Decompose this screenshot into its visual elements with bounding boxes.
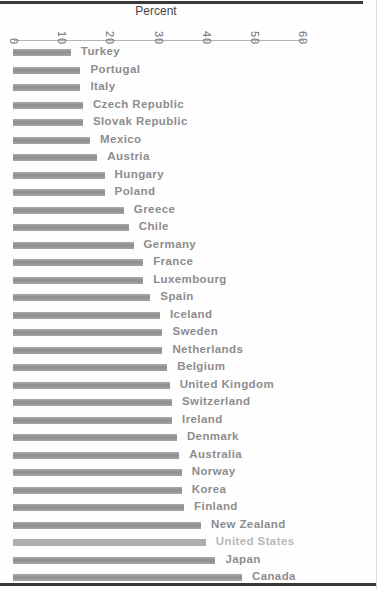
- bar-row: Finland: [0, 499, 377, 517]
- country-label: Italy: [90, 80, 115, 92]
- bar-row: Japan: [0, 552, 377, 570]
- bar: [13, 172, 105, 179]
- bar: [13, 189, 105, 196]
- bar: [13, 574, 242, 581]
- tertiary-attainment-bar-chart: Percent 0102030405060 TurkeyPortugalItal…: [0, 0, 377, 589]
- country-label: Sweden: [172, 325, 218, 337]
- country-label: Austria: [107, 150, 149, 162]
- country-label: Slovak Republic: [93, 115, 188, 127]
- country-label: Switzerland: [182, 395, 250, 407]
- bar-row: Slovak Republic: [0, 114, 377, 132]
- bar-row: Norway: [0, 464, 377, 482]
- bar-row: Australia: [0, 447, 377, 465]
- bar: [13, 504, 184, 511]
- country-label: United States: [216, 535, 295, 547]
- bar: [13, 154, 97, 161]
- bar-row: Germany: [0, 237, 377, 255]
- bar: [13, 259, 143, 266]
- country-label: United Kingdom: [180, 378, 274, 390]
- bar-row: Ireland: [0, 412, 377, 430]
- bar: [13, 487, 182, 494]
- bar: [13, 364, 167, 371]
- bar: [13, 224, 129, 231]
- country-label: Greece: [134, 203, 175, 215]
- bar: [13, 242, 134, 249]
- bar: [13, 294, 150, 301]
- country-label: Hungary: [115, 168, 164, 180]
- bar-row: Czech Republic: [0, 97, 377, 115]
- bar-row: Turkey: [0, 44, 377, 62]
- bar: [13, 539, 206, 546]
- bar-row: Switzerland: [0, 394, 377, 412]
- country-label: Ireland: [182, 413, 223, 425]
- bar-row: Austria: [0, 149, 377, 167]
- bar-row: Netherlands: [0, 342, 377, 360]
- bar-row: Hungary: [0, 167, 377, 185]
- country-label: Czech Republic: [93, 98, 184, 110]
- bar-rows: TurkeyPortugalItalyCzech RepublicSlovak …: [0, 0, 377, 589]
- bar: [13, 312, 160, 319]
- country-label: Chile: [139, 220, 169, 232]
- bar: [13, 557, 215, 564]
- bar: [13, 84, 80, 91]
- bar-row: Luxembourg: [0, 272, 377, 290]
- bar-row: Iceland: [0, 307, 377, 325]
- bar-row: United States: [0, 534, 377, 552]
- country-label: Belgium: [177, 360, 225, 372]
- bar-row: United Kingdom: [0, 377, 377, 395]
- country-label: Netherlands: [172, 343, 243, 355]
- bar-row: Denmark: [0, 429, 377, 447]
- country-label: Mexico: [100, 133, 141, 145]
- bar: [13, 67, 80, 74]
- country-label: Norway: [192, 465, 236, 477]
- bar: [13, 102, 83, 109]
- country-label: Finland: [194, 500, 238, 512]
- country-label: France: [153, 255, 193, 267]
- country-label: Denmark: [187, 430, 239, 442]
- bottom-rule: [0, 583, 377, 586]
- bar-row: France: [0, 254, 377, 272]
- bar-row: Mexico: [0, 132, 377, 150]
- bar-row: Belgium: [0, 359, 377, 377]
- country-label: Canada: [252, 570, 296, 582]
- bar: [13, 434, 177, 441]
- bar: [13, 277, 143, 284]
- bar: [13, 382, 170, 389]
- bar: [13, 207, 124, 214]
- bar: [13, 119, 83, 126]
- bar: [13, 417, 172, 424]
- country-label: Portugal: [90, 63, 140, 75]
- bar-row: Greece: [0, 202, 377, 220]
- bar-row: Korea: [0, 482, 377, 500]
- bar-row: Sweden: [0, 324, 377, 342]
- bar-row: Italy: [0, 79, 377, 97]
- bar: [13, 522, 201, 529]
- country-label: New Zealand: [211, 518, 286, 530]
- bar: [13, 49, 71, 56]
- bar: [13, 452, 179, 459]
- country-label: Luxembourg: [153, 273, 227, 285]
- country-label: Iceland: [170, 308, 212, 320]
- bar-row: Spain: [0, 289, 377, 307]
- country-label: Japan: [225, 553, 260, 565]
- bar: [13, 469, 182, 476]
- bar-row: Chile: [0, 219, 377, 237]
- bar-row: Poland: [0, 184, 377, 202]
- country-label: Germany: [144, 238, 197, 250]
- bar: [13, 347, 162, 354]
- country-label: Poland: [115, 185, 156, 197]
- country-label: Turkey: [81, 45, 120, 57]
- country-label: Spain: [160, 290, 193, 302]
- bar-row: Portugal: [0, 62, 377, 80]
- country-label: Australia: [189, 448, 242, 460]
- bar: [13, 137, 90, 144]
- country-label: Korea: [192, 483, 227, 495]
- bar-row: New Zealand: [0, 517, 377, 535]
- bar: [13, 329, 162, 336]
- bar: [13, 399, 172, 406]
